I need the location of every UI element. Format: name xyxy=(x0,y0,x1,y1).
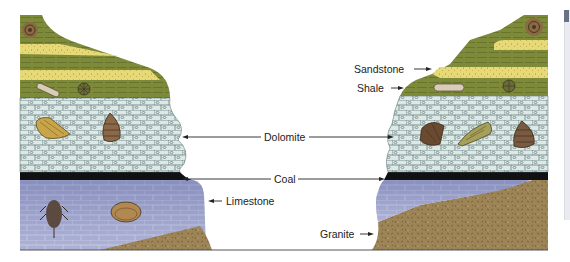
crinoid-stem-fossil-icon xyxy=(434,84,464,91)
right-edge-panel xyxy=(564,10,570,220)
left-sandstone-band-2 xyxy=(20,70,160,80)
crinoid-disk-fossil-icon xyxy=(503,80,515,92)
ammonite-fossil-icon xyxy=(22,22,38,38)
right-sandstone-band-2 xyxy=(494,40,548,50)
label-shale: Shale xyxy=(357,83,384,94)
right-edge-panel-header xyxy=(564,10,569,22)
right-sandstone-band-1 xyxy=(432,67,548,78)
label-limestone: Limestone xyxy=(226,196,274,207)
label-sandstone: Sandstone xyxy=(354,64,404,75)
label-dolomite: Dolomite xyxy=(264,132,305,143)
label-coal: Coal xyxy=(274,174,296,185)
right-coal-layer xyxy=(384,172,548,180)
left-coal-layer xyxy=(20,172,192,180)
brachiopod-fossil-icon xyxy=(111,202,141,222)
ammonite-fossil-icon xyxy=(525,18,543,36)
label-granite: Granite xyxy=(320,229,354,240)
crinoid-disk-fossil-icon xyxy=(78,83,90,95)
